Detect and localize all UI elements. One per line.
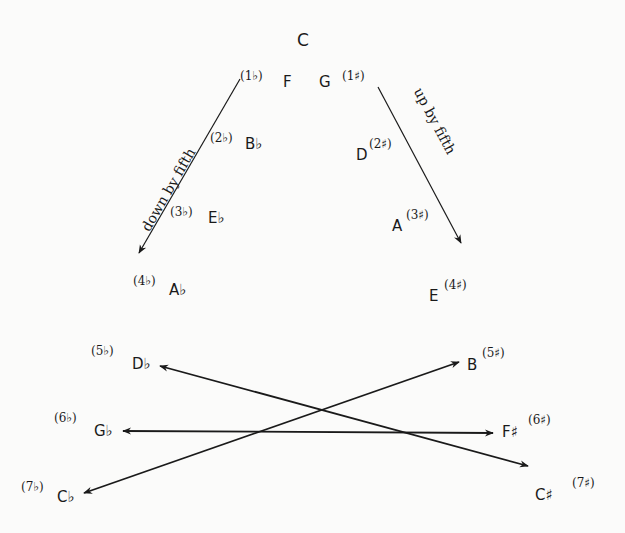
flat-7-count: (7♭) xyxy=(21,481,44,493)
sharp-5-count: (5♯) xyxy=(482,347,505,359)
note-e-flat: E♭ xyxy=(208,211,225,226)
flat-2-count: (2♭) xyxy=(210,132,233,144)
note-b: B xyxy=(467,358,477,373)
note-a: A xyxy=(392,219,402,234)
gflat-fsharp-arrow xyxy=(123,431,493,433)
flat-6-count: (6♭) xyxy=(54,412,77,424)
note-d-flat: D♭ xyxy=(132,357,151,372)
note-d: D xyxy=(356,148,368,163)
flat-5-count: (5♭) xyxy=(91,345,114,357)
note-f: F xyxy=(283,75,292,90)
note-g-flat: G♭ xyxy=(94,424,113,439)
dflat-csharp-arrow xyxy=(160,366,528,466)
sharp-2-count: (2♯) xyxy=(369,138,392,150)
arrow-layer xyxy=(0,0,625,533)
note-c: C xyxy=(297,32,309,49)
flat-4-count: (4♭) xyxy=(133,275,156,287)
note-a-flat: A♭ xyxy=(169,283,186,298)
sharp-6-count: (6♯) xyxy=(528,414,551,426)
note-f-sharp: F♯ xyxy=(502,425,518,440)
note-e: E xyxy=(429,289,438,304)
sharp-3-count: (3♯) xyxy=(406,209,429,221)
note-c-sharp: C♯ xyxy=(535,488,553,503)
note-b-flat: B♭ xyxy=(245,137,262,152)
sharp-4-count: (4♯) xyxy=(444,279,467,291)
note-g: G xyxy=(319,75,331,90)
sharp-7-count: (7♯) xyxy=(572,477,595,489)
flat-3-count: (3♭) xyxy=(170,206,193,218)
flat-1-count: (1♭) xyxy=(240,70,263,82)
note-c-flat: C♭ xyxy=(57,490,75,505)
cflat-b-arrow xyxy=(84,362,459,493)
sharp-1-count: (1♯) xyxy=(342,70,365,82)
